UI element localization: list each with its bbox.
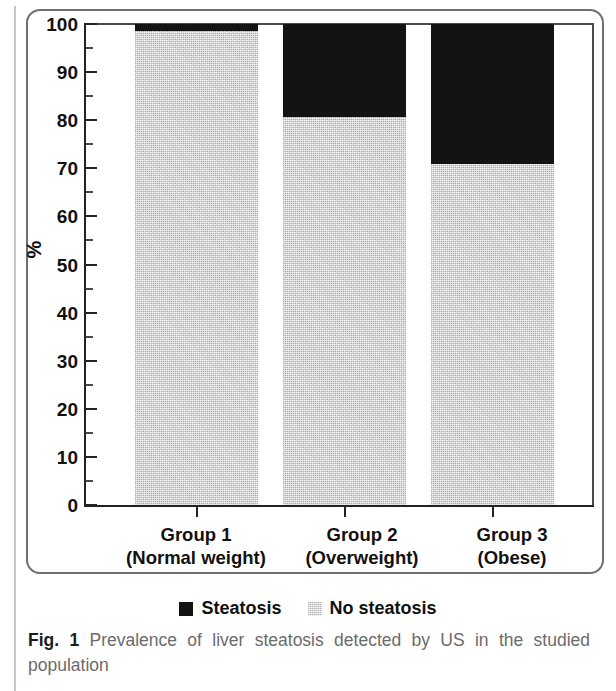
x-category-line2: (Obese): [432, 547, 592, 570]
black-square-icon: [179, 602, 193, 616]
stacked-bar: [283, 24, 406, 505]
x-category-label: Group 1(Normal weight): [96, 524, 296, 569]
bars-layer: [0, 0, 616, 691]
x-category-line2: (Overweight): [272, 547, 452, 570]
bar-segment-no-steatosis: [283, 117, 406, 505]
stacked-bar: [431, 24, 554, 505]
figure-caption: Fig. 1 Prevalence of liver steatosis det…: [28, 628, 590, 679]
x-category-line2: (Normal weight): [96, 547, 296, 570]
legend-item[interactable]: No steatosis: [308, 598, 437, 619]
figure-root: % 1009080706050403020100 Group 1(Normal …: [0, 0, 616, 691]
bar-segment-steatosis: [135, 24, 258, 31]
bar-segment-no-steatosis: [431, 164, 554, 506]
stacked-bar: [135, 24, 258, 505]
bar-segment-steatosis: [431, 24, 554, 163]
legend-label: Steatosis: [201, 598, 281, 619]
legend-label: No steatosis: [330, 598, 437, 619]
legend-item[interactable]: Steatosis: [179, 598, 281, 619]
bar-segment-steatosis: [283, 24, 406, 117]
x-category-line1: Group 1: [161, 524, 232, 545]
figure-caption-text: Prevalence of liver steatosis detected b…: [28, 630, 590, 675]
x-category-label: Group 3(Obese): [432, 524, 592, 569]
grey-square-icon: [308, 602, 322, 616]
chart-legend: SteatosisNo steatosis: [0, 598, 616, 619]
x-category-label: Group 2(Overweight): [272, 524, 452, 569]
bar-segment-no-steatosis: [135, 31, 258, 505]
x-category-line1: Group 2: [327, 524, 398, 545]
x-category-line1: Group 3: [477, 524, 548, 545]
figure-label: Fig. 1: [28, 630, 79, 650]
